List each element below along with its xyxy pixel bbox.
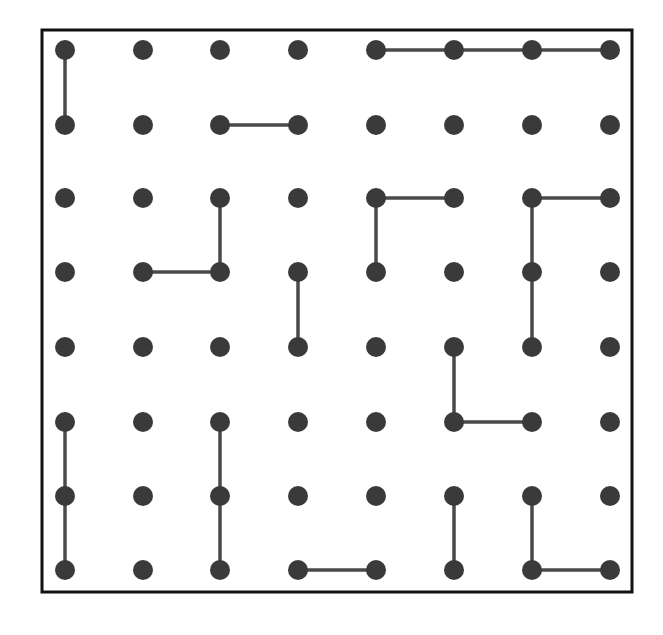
grid-dot bbox=[133, 115, 153, 135]
grid-dot bbox=[210, 40, 230, 60]
grid-dot bbox=[55, 188, 75, 208]
grid-dot bbox=[55, 40, 75, 60]
grid-dot bbox=[600, 188, 620, 208]
grid-dot bbox=[522, 115, 542, 135]
grid-dot bbox=[210, 486, 230, 506]
grid-dot bbox=[522, 262, 542, 282]
grid-dot bbox=[366, 188, 386, 208]
grid-dot bbox=[133, 262, 153, 282]
grid-dot bbox=[55, 560, 75, 580]
grid-dot bbox=[444, 40, 464, 60]
grid-dot bbox=[55, 412, 75, 432]
grid-dot bbox=[600, 115, 620, 135]
grid-dot bbox=[288, 560, 308, 580]
grid-dot bbox=[133, 188, 153, 208]
grid-dot bbox=[133, 337, 153, 357]
grid-dot bbox=[210, 188, 230, 208]
grid-dot bbox=[55, 262, 75, 282]
grid-dot bbox=[522, 40, 542, 60]
grid-dot bbox=[288, 262, 308, 282]
grid-dot bbox=[600, 40, 620, 60]
dot-grid-board bbox=[0, 0, 663, 635]
grid-dot bbox=[600, 337, 620, 357]
grid-dot bbox=[444, 115, 464, 135]
grid-dot bbox=[600, 486, 620, 506]
grid-dot bbox=[288, 337, 308, 357]
grid-dot bbox=[444, 262, 464, 282]
grid-dot bbox=[133, 412, 153, 432]
grid-dot bbox=[366, 412, 386, 432]
grid-dot bbox=[366, 262, 386, 282]
grid-dot bbox=[133, 40, 153, 60]
grid-dot bbox=[600, 560, 620, 580]
grid-dot bbox=[55, 486, 75, 506]
grid-dot bbox=[210, 337, 230, 357]
grid-dot bbox=[600, 412, 620, 432]
board-border bbox=[42, 30, 632, 592]
grid-dot bbox=[133, 486, 153, 506]
grid-dot bbox=[288, 188, 308, 208]
grid-dot bbox=[522, 412, 542, 432]
grid-dot bbox=[522, 188, 542, 208]
grid-dot bbox=[55, 115, 75, 135]
grid-dot bbox=[288, 115, 308, 135]
grid-dot bbox=[210, 560, 230, 580]
grid-dot bbox=[366, 40, 386, 60]
grid-dot bbox=[522, 560, 542, 580]
grid-dot bbox=[366, 115, 386, 135]
grid-dot bbox=[210, 115, 230, 135]
grid-dot bbox=[444, 188, 464, 208]
grid-dot bbox=[444, 337, 464, 357]
grid-dot bbox=[444, 412, 464, 432]
grid-dot bbox=[444, 560, 464, 580]
grid-dot bbox=[366, 560, 386, 580]
grid-dot bbox=[288, 412, 308, 432]
grid-dot bbox=[210, 262, 230, 282]
grid-dot bbox=[522, 486, 542, 506]
grid-dot bbox=[210, 412, 230, 432]
grid-dot bbox=[288, 486, 308, 506]
grid-dot bbox=[444, 486, 464, 506]
grid-dot bbox=[55, 337, 75, 357]
grid-dot bbox=[288, 40, 308, 60]
grid-dot bbox=[522, 337, 542, 357]
grid-dot bbox=[366, 337, 386, 357]
grid-dot bbox=[366, 486, 386, 506]
grid-dot bbox=[133, 560, 153, 580]
grid-dot bbox=[600, 262, 620, 282]
